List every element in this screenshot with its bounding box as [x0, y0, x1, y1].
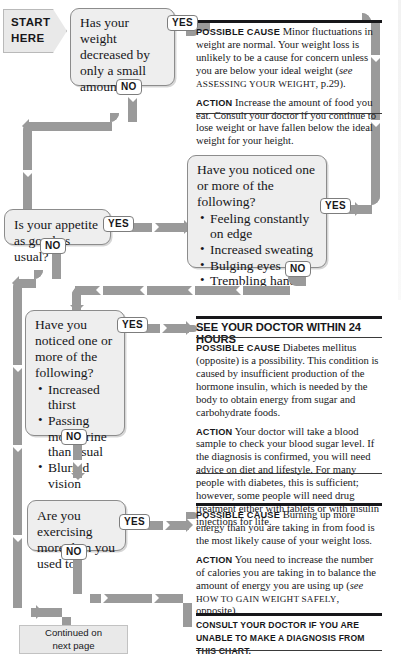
- connector-q3-no-left: [75, 286, 290, 295]
- q4-yes-label[interactable]: YES: [117, 317, 148, 333]
- arrowhead-q2-yes-mid: [152, 220, 159, 234]
- start-line-1: START: [11, 15, 66, 31]
- possible-cause-label: Possible cause: [196, 27, 280, 37]
- see-reference-italic: see: [350, 580, 364, 591]
- q2-no-label[interactable]: NO: [40, 238, 66, 254]
- arrowhead-q5-yes-mid: [163, 518, 170, 532]
- possible-cause-label: Possible cause: [196, 510, 280, 520]
- arrowhead-left-rail-2a: [11, 365, 25, 372]
- see-reference-italic: see: [339, 65, 353, 76]
- arrowhead-q3-no-1: [236, 283, 243, 297]
- divider-after-advice-1: [196, 113, 382, 114]
- arrowhead-q3-no-3: [140, 283, 147, 297]
- corner-q2-no: [34, 270, 43, 279]
- question-box-weight-decreased[interactable]: Has your weight decreased by only a smal…: [70, 8, 175, 86]
- action-label: Action: [196, 98, 232, 108]
- arrowhead-q5-no-1: [101, 591, 108, 605]
- arrowhead-q3-yes: [355, 202, 362, 216]
- q5-yes-label[interactable]: YES: [119, 514, 150, 530]
- divider-before-consult: [196, 613, 382, 616]
- advice-1-action: Action Increase the amount of food you e…: [196, 97, 382, 149]
- divider-before-heading: [196, 316, 382, 319]
- continued-line-2: next page: [52, 640, 94, 653]
- flowchart-page: START HERE Has your weight decreased by …: [0, 0, 401, 657]
- arrowhead-q3-no-2: [188, 283, 195, 297]
- q3-no-label[interactable]: NO: [285, 261, 311, 277]
- divider-before-advice-3: [196, 503, 382, 506]
- list-item: Feeling constantly on edge: [210, 211, 318, 242]
- advice-2-cause: Possible cause Diabetes mellitus (opposi…: [196, 342, 382, 420]
- q2-yes-label[interactable]: YES: [103, 216, 134, 232]
- action-label: Action: [196, 555, 232, 565]
- q4-no-label[interactable]: NO: [61, 429, 87, 445]
- advice-block-1: Possible cause Minor fluctuations in wei…: [196, 26, 382, 154]
- start-line-2: HERE: [11, 31, 66, 47]
- arrowhead-q5-yes: [186, 518, 193, 532]
- arrowhead-to-continued: [36, 605, 43, 619]
- advice-2-cause-text: Diabetes mellitus (opposite) is a possib…: [196, 342, 378, 418]
- divider-top: [196, 20, 382, 23]
- start-here-flag: START HERE: [3, 9, 67, 53]
- corner-q1-no: [110, 113, 119, 122]
- arrowhead-q4-no: [71, 460, 85, 467]
- arrowhead-q4-no-end: [71, 473, 85, 480]
- cross-reference-title: How to gain weight safely: [196, 594, 337, 604]
- divider-bottom: [196, 650, 382, 651]
- cross-reference-title: Assessing your weight: [196, 79, 316, 89]
- list-item: Increased thirst: [48, 382, 116, 413]
- q3-yes-label[interactable]: YES: [320, 198, 351, 214]
- arrowhead-q1-no: [126, 95, 140, 102]
- connector-q1-no-left: [26, 122, 112, 131]
- divider-after-advice-2: [196, 473, 382, 474]
- action-label: Action: [196, 427, 232, 437]
- consult-doctor-note: Consult your doctor if you are unable to…: [196, 619, 382, 657]
- q1-yes-label[interactable]: YES: [167, 15, 198, 31]
- list-item: Increased sweating: [210, 242, 318, 258]
- corner-q3-no-2: [72, 286, 81, 295]
- advice-1-cause-tail: , p.29).: [316, 78, 346, 89]
- continued-line-1: Continued on: [45, 627, 102, 640]
- continued-next-page-box[interactable]: Continued on next page: [19, 625, 128, 654]
- arrowhead-left-rail-1: [21, 170, 35, 177]
- q1-no-label[interactable]: NO: [116, 79, 142, 95]
- advice-1-cause: Possible cause Minor fluctuations in wei…: [196, 26, 382, 91]
- question-box-thyroid-symptoms[interactable]: Have you noticed one or more of the foll…: [187, 155, 327, 268]
- advice-block-3: Possible cause Burning up more energy th…: [196, 509, 382, 624]
- question-box-diabetes-symptoms[interactable]: Have you noticed one or more of the foll…: [25, 310, 125, 436]
- q5-no-label[interactable]: NO: [61, 544, 87, 560]
- arrowhead-q4-yes-mid: [160, 321, 167, 335]
- arrowhead-q5-no-2: [152, 591, 159, 605]
- advice-3-cause: Possible cause Burning up more energy th…: [196, 509, 382, 548]
- arrowhead-left-rail-2b: [11, 445, 25, 452]
- divider-after-heading: [196, 337, 382, 338]
- question-text-3: Have you noticed one or more of the foll…: [197, 162, 315, 209]
- possible-cause-label: Possible cause: [196, 343, 280, 353]
- advice-3-action: Action You need to increase the number o…: [196, 554, 382, 619]
- arrowhead-q3-no-4: [96, 283, 103, 297]
- arrowhead-left-rail-2c: [11, 535, 25, 542]
- question-text-4: Have you noticed one or more of the foll…: [35, 317, 112, 380]
